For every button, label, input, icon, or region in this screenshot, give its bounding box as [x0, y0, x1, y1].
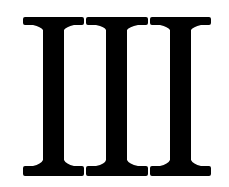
roman-numeral-glyph — [0, 0, 229, 187]
